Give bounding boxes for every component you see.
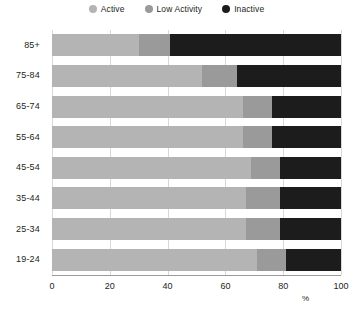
circle-swatch-icon: [222, 5, 230, 13]
bar-row: [52, 61, 341, 92]
y-axis-tick-label: 75-84: [0, 61, 46, 92]
x-axis-tick-label: 20: [105, 280, 115, 292]
bar-segment-low-activity[interactable]: [251, 157, 280, 179]
bar-segment-inactive[interactable]: [286, 249, 341, 271]
bar-segment-active[interactable]: [52, 34, 139, 56]
x-axis-tick-label: 100: [333, 280, 348, 292]
stacked-bar-chart: ActiveLow ActivityInactive 85+75-8465-74…: [0, 0, 353, 323]
y-axis-tick-label: 85+: [0, 30, 46, 61]
bar-segment-inactive[interactable]: [170, 34, 341, 56]
y-axis-labels: 85+75-8465-7455-6445-5435-4425-3419-24: [0, 30, 46, 275]
bar-segment-inactive[interactable]: [280, 218, 341, 240]
gridline: [341, 30, 342, 275]
x-axis-tick-label: 40: [163, 280, 173, 292]
stacked-bar[interactable]: [52, 96, 341, 118]
stacked-bar[interactable]: [52, 187, 341, 209]
chart-legend: ActiveLow ActivityInactive: [0, 4, 353, 14]
legend-label: Low Activity: [157, 4, 203, 14]
circle-swatch-icon: [89, 5, 97, 13]
bar-row: [52, 244, 341, 275]
bar-segment-active[interactable]: [52, 218, 246, 240]
y-axis-tick-label: 19-24: [0, 244, 46, 275]
stacked-bar[interactable]: [52, 249, 341, 271]
legend-item[interactable]: Active: [89, 4, 125, 14]
bar-segment-active[interactable]: [52, 187, 246, 209]
bar-segment-inactive[interactable]: [280, 157, 341, 179]
bar-series-container: [52, 30, 341, 275]
x-axis-line: [52, 275, 341, 276]
bar-segment-low-activity[interactable]: [243, 96, 272, 118]
stacked-bar[interactable]: [52, 126, 341, 148]
bar-segment-low-activity[interactable]: [139, 34, 171, 56]
stacked-bar[interactable]: [52, 34, 341, 56]
plot-area: [52, 30, 341, 275]
bar-row: [52, 183, 341, 214]
bar-segment-inactive[interactable]: [272, 96, 341, 118]
bar-segment-low-activity[interactable]: [257, 249, 286, 271]
bar-segment-low-activity[interactable]: [202, 65, 237, 87]
bar-segment-low-activity[interactable]: [246, 187, 281, 209]
x-axis-tick-label: 0: [49, 280, 54, 292]
y-axis-tick-label: 35-44: [0, 183, 46, 214]
legend-label: Active: [101, 4, 125, 14]
bar-segment-active[interactable]: [52, 65, 202, 87]
bar-segment-low-activity[interactable]: [246, 218, 281, 240]
bar-row: [52, 30, 341, 61]
legend-item[interactable]: Low Activity: [145, 4, 203, 14]
stacked-bar[interactable]: [52, 65, 341, 87]
x-axis-tick-label: 80: [278, 280, 288, 292]
bar-segment-active[interactable]: [52, 126, 243, 148]
x-axis-unit-label: %: [302, 294, 309, 304]
bar-segment-inactive[interactable]: [280, 187, 341, 209]
y-axis-tick-label: 65-74: [0, 91, 46, 122]
legend-item[interactable]: Inactive: [222, 4, 264, 14]
bar-segment-inactive[interactable]: [272, 126, 341, 148]
legend-label: Inactive: [234, 4, 264, 14]
bar-row: [52, 214, 341, 245]
bar-segment-active[interactable]: [52, 96, 243, 118]
circle-swatch-icon: [145, 5, 153, 13]
stacked-bar[interactable]: [52, 218, 341, 240]
bar-segment-low-activity[interactable]: [243, 126, 272, 148]
y-axis-tick-label: 45-54: [0, 153, 46, 184]
bar-row: [52, 122, 341, 153]
stacked-bar[interactable]: [52, 157, 341, 179]
bar-row: [52, 91, 341, 122]
x-axis-labels: 020406080100: [52, 280, 341, 294]
y-axis-tick-label: 55-64: [0, 122, 46, 153]
bar-row: [52, 153, 341, 184]
x-axis-tick-label: 60: [220, 280, 230, 292]
y-axis-tick-label: 25-34: [0, 214, 46, 245]
bar-segment-inactive[interactable]: [237, 65, 341, 87]
bar-segment-active[interactable]: [52, 249, 257, 271]
bar-segment-active[interactable]: [52, 157, 251, 179]
